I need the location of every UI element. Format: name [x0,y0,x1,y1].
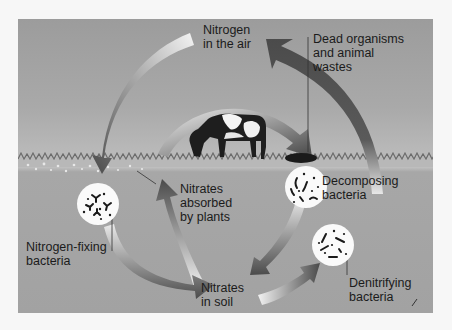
label-nitrogen-fixing-bacteria: Nitrogen-fixing bacteria [26,240,107,268]
diagram-panel: Nitrogen in the air Dead organisms and a… [18,19,433,313]
nitrogen-fixing-bacteria-icon [77,183,119,225]
stray-mark [412,299,417,306]
label-decomposing-bacteria: Decomposing bacteria [322,174,398,202]
arrow-air-to-fixing [92,33,194,174]
nitrogen-cycle-figure: Nitrogen in the air Dead organisms and a… [0,0,452,330]
arrow-fixing-to-soil [104,224,214,299]
leader-line-absorbed [137,171,156,184]
label-nitrates-absorbed: Nitrates absorbed by plants [180,182,232,224]
arrow-decomposing-to-soil [250,197,307,275]
dead-organisms-pile [285,153,317,163]
label-nitrogen-in-air: Nitrogen in the air [203,23,251,51]
label-dead-organisms: Dead organisms and animal wastes [313,32,404,74]
label-nitrates-in-soil: Nitrates in soil [201,281,244,309]
decomposing-bacteria-icon [285,166,327,208]
label-denitrifying-bacteria: Denitrifying bacteria [349,276,412,304]
denitrifying-bacteria-icon [312,224,354,266]
